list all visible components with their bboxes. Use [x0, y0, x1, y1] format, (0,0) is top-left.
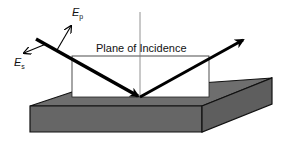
plane-of-incidence	[72, 56, 209, 97]
plane-label: Plane of Incidence	[96, 42, 187, 54]
es-vector	[24, 44, 46, 53]
ep-label: Ep	[72, 6, 83, 21]
es-label: Es	[14, 56, 25, 70]
reflection-diagram: Plane of Incidence Ep Es	[0, 0, 284, 142]
sample-front-face	[30, 106, 202, 132]
ep-vector	[57, 26, 71, 50]
